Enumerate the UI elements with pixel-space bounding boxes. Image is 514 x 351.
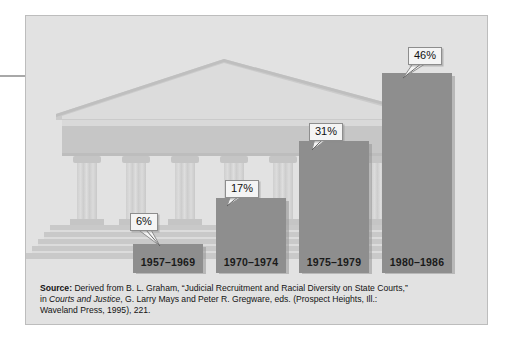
callout-value-1980-1986: 46%	[408, 47, 442, 65]
plot-area: 1957–1969 1970–1974 1975–1979 1980–1986	[26, 16, 487, 274]
source-line-2-rest: , G. Larry Mays and Peter R. Gregware, e…	[120, 294, 377, 304]
callout-value-1970-1974: 17%	[225, 180, 259, 198]
chart-panel: 1957–1969 1970–1974 1975–1979 1980–1986	[25, 15, 488, 325]
callout-value-1975-1979: 31%	[309, 123, 343, 141]
source-book-title: Courts and Justice	[49, 294, 120, 304]
source-note: Source: Derived from B. L. Graham, “Judi…	[26, 274, 487, 325]
callout-value-1957-1969: 6%	[130, 213, 158, 231]
source-line-3: Waveland Press, 1995), 221.	[40, 305, 473, 316]
source-line-2-lead: in	[40, 294, 49, 304]
figure-container: 1957–1969 1970–1974 1975–1979 1980–1986	[0, 0, 514, 351]
left-margin-rule	[0, 75, 28, 77]
source-line-2: in Courts and Justice, G. Larry Mays and…	[40, 294, 473, 305]
source-line-1-text: Derived from B. L. Graham, “Judicial Rec…	[72, 283, 408, 293]
source-line-1: Source: Derived from B. L. Graham, “Judi…	[40, 283, 473, 294]
source-prefix: Source:	[40, 283, 72, 293]
